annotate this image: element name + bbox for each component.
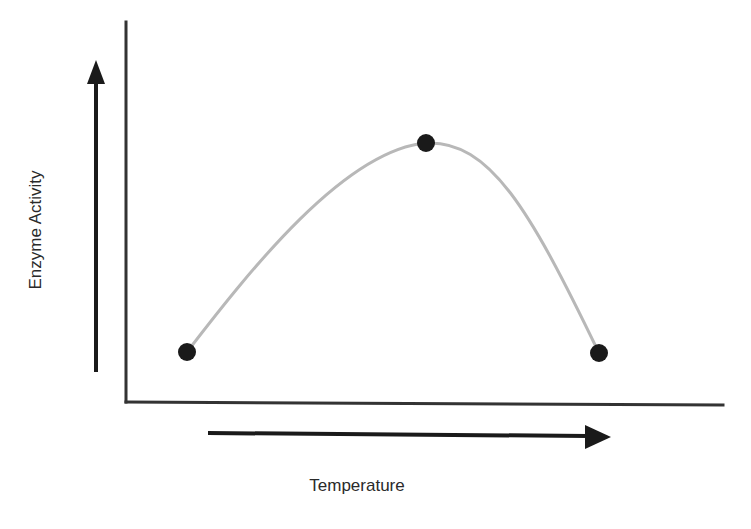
data-point-optimum [417,134,435,152]
x-axis-line [126,402,723,405]
right-arrow-icon [208,425,611,449]
data-point-low [178,343,196,361]
activity-curve [187,143,599,353]
x-axis-label: Temperature [309,476,404,495]
data-points [178,134,608,362]
up-arrow-icon [87,60,105,372]
y-axis-label: Enzyme Activity [26,170,45,290]
enzyme-activity-chart: Enzyme Activity Temperature [0,0,751,529]
data-point-high [590,344,608,362]
axes [126,22,723,405]
